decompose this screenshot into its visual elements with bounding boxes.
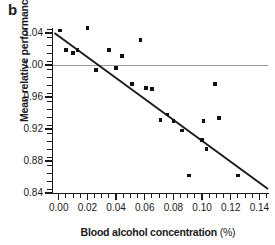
x-tick-0.06 bbox=[144, 194, 145, 200]
y-tick-minor bbox=[47, 109, 52, 110]
scatter-point bbox=[139, 38, 143, 42]
y-tick-label-0.96: 0.96 bbox=[3, 92, 43, 102]
scatter-point bbox=[205, 147, 209, 151]
y-tick-0.96 bbox=[45, 96, 52, 97]
scatter-point bbox=[71, 51, 75, 55]
x-tick-minor bbox=[101, 194, 102, 198]
y-tick-minor bbox=[47, 37, 52, 38]
x-tick-minor bbox=[130, 194, 131, 198]
y-tick-minor bbox=[47, 173, 52, 174]
x-tick-minor bbox=[65, 194, 66, 198]
y-tick-label-1.00: 1.00 bbox=[3, 60, 43, 70]
x-tick-0.00 bbox=[58, 194, 59, 200]
x-axis-title: Blood alcohol concentration (%) bbox=[44, 226, 272, 238]
x-tick-minor bbox=[187, 194, 188, 198]
x-tick-minor bbox=[151, 194, 152, 198]
y-tick-minor bbox=[47, 61, 52, 62]
x-tick-minor bbox=[73, 194, 74, 198]
x-tick-minor bbox=[166, 194, 167, 198]
scatter-point bbox=[236, 174, 240, 178]
y-tick-minor bbox=[47, 77, 52, 78]
x-tick-minor bbox=[159, 194, 160, 198]
y-tick-label-0.92: 0.92 bbox=[3, 124, 43, 134]
y-tick-label-0.88: 0.88 bbox=[3, 156, 43, 166]
scatter-point bbox=[76, 48, 80, 52]
x-tick-minor bbox=[216, 194, 217, 198]
x-tick-minor bbox=[209, 194, 210, 198]
x-axis-title-unit: (%) bbox=[220, 226, 236, 238]
y-tick-minor bbox=[47, 165, 52, 166]
scatter-point bbox=[172, 119, 176, 123]
x-tick-minor bbox=[180, 194, 181, 198]
panel-label: b bbox=[8, 2, 17, 17]
y-tick-minor bbox=[47, 181, 52, 182]
x-tick-0.14 bbox=[259, 194, 260, 200]
y-tick-minor bbox=[47, 133, 52, 134]
x-tick-minor bbox=[137, 194, 138, 198]
y-tick-minor bbox=[47, 69, 52, 70]
scatter-point bbox=[114, 66, 118, 70]
y-tick-0.92 bbox=[45, 128, 52, 129]
x-tick-minor bbox=[223, 194, 224, 198]
scatter-point bbox=[213, 82, 217, 86]
x-axis-title-main: Blood alcohol concentration bbox=[81, 226, 220, 238]
x-tick-minor bbox=[237, 194, 238, 198]
x-tick-label-0.14: 0.14 bbox=[239, 203, 275, 213]
x-tick-minor bbox=[80, 194, 81, 198]
x-tick-minor bbox=[194, 194, 195, 198]
scatter-point bbox=[187, 174, 191, 178]
scatter-point bbox=[130, 82, 134, 86]
x-tick-0.12 bbox=[230, 194, 231, 200]
y-tick-minor bbox=[47, 85, 52, 86]
scatter-point bbox=[217, 116, 221, 120]
y-tick-minor bbox=[47, 29, 52, 30]
y-tick-minor bbox=[47, 93, 52, 94]
scatter-point bbox=[58, 29, 62, 33]
x-tick-0.02 bbox=[87, 194, 88, 200]
scatter-point bbox=[200, 138, 204, 142]
y-tick-minor bbox=[47, 141, 52, 142]
scatter-point bbox=[64, 48, 68, 52]
scatter-point bbox=[180, 129, 184, 133]
y-tick-label-0.84: 0.84 bbox=[3, 188, 43, 198]
y-tick-minor bbox=[47, 157, 52, 158]
y-tick-0.88 bbox=[45, 160, 52, 161]
y-tick-minor bbox=[47, 101, 52, 102]
scatter-point bbox=[159, 118, 163, 122]
x-tick-minor bbox=[108, 194, 109, 198]
y-tick-minor bbox=[47, 117, 52, 118]
scatter-point bbox=[144, 86, 148, 90]
scatter-point bbox=[202, 119, 206, 123]
y-tick-minor bbox=[47, 125, 52, 126]
x-tick-minor bbox=[123, 194, 124, 198]
scatter-point bbox=[120, 54, 124, 58]
y-tick-minor bbox=[47, 149, 52, 150]
x-tick-0.10 bbox=[201, 194, 202, 200]
y-tick-label-1.04: 1.04 bbox=[3, 28, 43, 38]
y-axis-line bbox=[52, 28, 53, 194]
scatter-point bbox=[94, 68, 98, 72]
scatter-point bbox=[107, 48, 111, 52]
y-tick-minor bbox=[47, 189, 52, 190]
y-tick-1 bbox=[45, 64, 52, 65]
reference-line-1p00 bbox=[53, 65, 268, 66]
scatter-point bbox=[86, 26, 90, 30]
x-tick-minor bbox=[245, 194, 246, 198]
x-tick-minor bbox=[266, 194, 267, 198]
x-tick-minor bbox=[252, 194, 253, 198]
scatter-point bbox=[150, 87, 154, 91]
y-tick-0.84 bbox=[45, 192, 52, 193]
chart-figure: b Mean relative performance Blood alcoho… bbox=[0, 0, 275, 245]
x-tick-0.08 bbox=[173, 194, 174, 200]
y-tick-minor bbox=[47, 53, 52, 54]
y-tick-minor bbox=[47, 45, 52, 46]
x-tick-minor bbox=[94, 194, 95, 198]
scatter-point bbox=[166, 113, 170, 117]
y-tick-1.04 bbox=[45, 32, 52, 33]
x-tick-0.04 bbox=[115, 194, 116, 200]
